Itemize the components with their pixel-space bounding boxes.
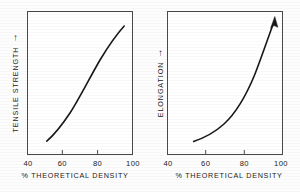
- x-axis-label-elongation: % THEORETICAL DENSITY: [154, 171, 300, 180]
- x-tick-label-80: 80: [240, 159, 249, 168]
- x-axis-label-tensile-strength: % THEORETICAL DENSITY: [0, 171, 150, 180]
- chart-panel-elongation: ELONGATION → 40 60 80 100 % THEORETICAL …: [150, 0, 300, 192]
- data-curve-tensile-strength: [47, 26, 124, 141]
- x-axis-tick-labels-tensile-strength: 40 60 80 100: [0, 159, 150, 171]
- x-tick-label-100: 100: [126, 159, 140, 168]
- chart-panel-tensile-strength: TENSILE STRENGTH → 40 60 80 100 % THEORE…: [0, 0, 150, 192]
- data-curve-elongation: [194, 24, 274, 141]
- x-axis-tick-labels-elongation: 40 60 80 100: [150, 159, 300, 171]
- x-tick-label-60: 60: [201, 159, 210, 168]
- figure-canvas: TENSILE STRENGTH → 40 60 80 100 % THEORE…: [0, 0, 300, 192]
- x-tick-label-100: 100: [274, 159, 288, 168]
- x-tick-label-40: 40: [163, 159, 172, 168]
- curve-arrowhead-icon: [271, 17, 278, 29]
- x-tick-label-80: 80: [93, 159, 102, 168]
- x-tick-label-60: 60: [58, 159, 67, 168]
- x-tick-label-40: 40: [23, 159, 32, 168]
